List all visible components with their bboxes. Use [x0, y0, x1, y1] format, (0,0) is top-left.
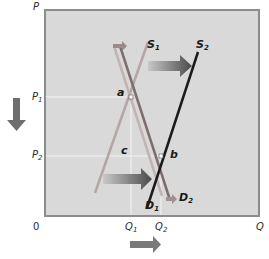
s1-label-text: S — [147, 38, 155, 51]
point-c-label: c — [121, 145, 128, 156]
s2-label-sub: 2 — [204, 44, 209, 52]
p1-label-sub: 1 — [38, 96, 42, 104]
s1-label: S1 — [147, 39, 160, 52]
d1-label-text: D — [145, 199, 154, 212]
point-b-marker — [159, 154, 163, 158]
price-down-arrow-icon — [7, 98, 26, 131]
d2-label: D2 — [179, 192, 193, 205]
d2-label-sub: 2 — [188, 197, 193, 205]
point-a-label: a — [117, 87, 124, 98]
point-a-marker — [129, 95, 133, 99]
q1-label-sub: 1 — [133, 226, 137, 234]
p2-label-sub: 2 — [38, 154, 42, 162]
s2-label: S2 — [196, 39, 209, 52]
quantity-right-arrow-icon — [130, 236, 161, 253]
q2-label: Q2 — [155, 222, 167, 234]
s1-label-sub: 1 — [155, 44, 160, 52]
q2-label-text: Q — [155, 221, 163, 232]
diagram-canvas — [0, 0, 269, 259]
p2-label: P2 — [32, 150, 43, 162]
y-axis-label: P — [33, 2, 39, 12]
point-b-label: b — [170, 149, 178, 160]
p1-label: P1 — [32, 92, 43, 104]
d2-label-text: D — [179, 191, 188, 204]
x-axis-label: Q — [256, 222, 264, 232]
q1-label: Q1 — [125, 222, 137, 234]
q1-label-text: Q — [125, 221, 133, 232]
q2-label-sub: 2 — [163, 226, 167, 234]
s2-label-text: S — [196, 38, 204, 51]
d1-label: D1 — [145, 200, 159, 213]
origin-label: 0 — [33, 222, 39, 232]
d1-label-sub: 1 — [154, 205, 159, 213]
